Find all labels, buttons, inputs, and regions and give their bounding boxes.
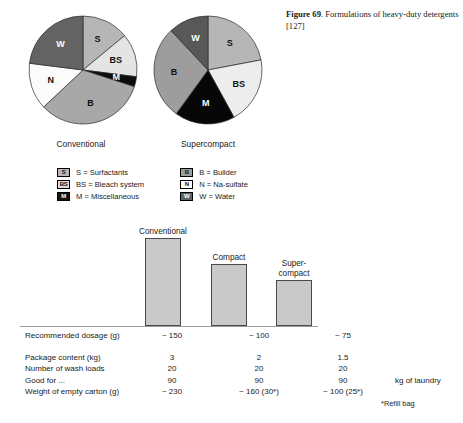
legend-item-w: WW = Water [180,192,248,201]
pie-slice-label-b: B [87,98,94,108]
figure-number: Figure 69 [286,9,321,19]
legend-swatch-s-icon: S [57,168,70,177]
legend-swatch-w-icon: W [180,192,193,201]
row-label: Number of wash loads [25,364,105,373]
table-row: Number of wash loads202020 [25,364,455,376]
legend-label: S = Surfactants [76,168,128,177]
pie-slice-label-n: N [47,75,54,85]
row-value: ~ 100 (25*) [306,387,380,396]
legend-label: B = Builder [199,168,236,177]
legend-item-n: NN = Na-sulfate [180,180,248,189]
row-value: 3 [135,353,209,362]
pie-slice-label-b: B [171,67,178,77]
bar-chart-baseline [20,326,318,327]
pie-conventional-svg: SBSMBNW [27,12,139,128]
bar-label-conventional: Conventional [129,227,197,237]
row-value: ~ 150 [135,331,209,340]
row-value: ~ 160 (30*) [222,387,296,396]
row-value: 20 [222,364,296,373]
row-value: 90 [222,376,296,385]
table-footnote: *Refill bag [381,399,415,408]
bar-conventional [145,238,181,326]
pie-conventional-title: Conventional [27,139,135,149]
bar-label-line2: compact [279,269,310,278]
bar-label-super-compact: Super-compact [260,259,328,278]
pie-supercompact-svg: SBSMBW [152,12,264,128]
row-value: 2 [222,353,296,362]
pie-legend: SS = SurfactantsBB = BuilderBSBS = Bleac… [57,168,248,201]
pie-slice-label-m: M [202,98,210,108]
legend-item-bs: BSBS = Bleach system [57,180,144,189]
pie-supercompact-title: Supercompact [152,139,264,149]
legend-item-b: BB = Builder [180,168,248,177]
table-body: Package content (kg)321.5Number of wash … [25,353,455,399]
pie-chart-conventional: SBSMBNW [27,12,139,128]
bar-label-compact: Compact [195,253,263,263]
row-label: Package content (kg) [25,353,101,362]
table-row: Package content (kg)321.5 [25,353,455,365]
table-row-dosage: Recommended dosage (g) ~ 150 ~ 100 ~ 75 [25,331,455,343]
legend-swatch-b-icon: B [180,168,193,177]
bar-compact [211,264,247,326]
legend-label: M = Miscellaneous [76,192,139,201]
row-value: 20 [135,364,209,373]
row-label: Recommended dosage (g) [25,331,120,340]
pie-slice-label-w: W [56,39,65,49]
legend-label: N = Na-sulfate [199,180,248,189]
pie-slice-label-s: S [94,34,100,44]
bar-super-compact [276,280,312,326]
row-value: ~ 230 [135,387,209,396]
pie-slice-label-s: S [227,38,233,48]
row-value: ~ 75 [306,331,380,340]
table-row: Weight of empty carton (g)~ 230~ 160 (30… [25,387,455,399]
row-value: ~ 100 [222,331,296,340]
legend-swatch-m-icon: M [57,192,70,201]
legend-item-s: SS = Surfactants [57,168,144,177]
row-value: 1.5 [306,353,380,362]
row-label: Good for ... [25,376,65,385]
pie-slice-label-bs: BS [109,55,122,65]
row-unit: kg of laundry [395,376,441,385]
row-value: 20 [306,364,380,373]
table-row: Good for ...909090kg of laundry [25,376,455,388]
row-label: Weight of empty carton (g) [25,387,119,396]
bar-chart: ConventionalCompactSuper-compact [20,226,443,326]
legend-label: W = Water [199,192,235,201]
pie-slice-label-bs: BS [233,79,246,89]
legend-swatch-n-icon: N [180,180,193,189]
legend-label: BS = Bleach system [76,180,144,189]
figure-caption: Figure 69. Formulations of heavy-duty de… [286,8,460,32]
legend-item-m: MM = Miscellaneous [57,192,144,201]
legend-swatch-bs-icon: BS [57,180,70,189]
pie-chart-supercompact: SBSMBW [152,12,264,128]
row-value: 90 [306,376,380,385]
pie-slice-label-w: W [191,33,200,43]
row-value: 90 [135,376,209,385]
data-table: Recommended dosage (g) ~ 150 ~ 100 ~ 75 … [25,331,455,399]
